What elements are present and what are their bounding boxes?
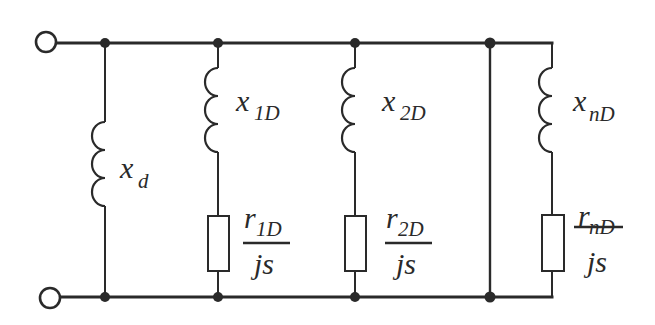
label-xd-main: x <box>119 151 134 184</box>
label-x1d-main: x <box>235 84 250 117</box>
node-bottom-2 <box>350 292 360 302</box>
node-top-xd <box>100 38 110 48</box>
top-terminal <box>36 32 56 52</box>
node-top-wire <box>485 38 496 49</box>
label-r1d-den: js <box>250 247 274 280</box>
bottom-terminal <box>40 288 60 308</box>
junction-nodes <box>100 38 496 303</box>
circuit-diagram: x d x 1D r 1D js x 2D r 2D js <box>0 0 655 325</box>
inductor-xnd <box>539 68 552 152</box>
node-bottom-wire <box>485 292 496 303</box>
label-x2d-sub: 2D <box>400 101 426 125</box>
label-r2d-num-main: r <box>386 201 398 234</box>
label-r1d-num-sub: 1D <box>256 217 282 241</box>
branch-xd: x d <box>92 43 149 297</box>
inductor-x1d <box>205 68 218 152</box>
label-rnd-den: js <box>583 245 607 278</box>
node-bottom-xd <box>100 292 110 302</box>
label-x2d-main: x <box>381 84 396 117</box>
label-r2d-den: js <box>392 247 416 280</box>
branch-n: x nD r nD js <box>539 43 624 297</box>
resistor-r1d <box>208 216 229 271</box>
label-x1d-sub: 1D <box>254 101 280 125</box>
inductor-xd <box>92 122 105 206</box>
label-r1d-num-main: r <box>244 201 256 234</box>
branch-2: x 2D r 2D js <box>342 43 432 297</box>
resistor-r2d <box>345 216 366 271</box>
label-xd-sub: d <box>138 169 149 193</box>
node-top-1 <box>213 38 223 48</box>
label-xnd-main: x <box>572 84 587 117</box>
label-xnd-sub: nD <box>589 102 615 126</box>
label-r2d-num-sub: 2D <box>398 217 424 241</box>
resistor-rnd <box>542 215 564 271</box>
branch-1: x 1D r 1D js <box>205 43 290 297</box>
node-bottom-1 <box>213 292 223 302</box>
inductor-x2d <box>342 68 355 152</box>
node-top-2 <box>350 38 360 48</box>
